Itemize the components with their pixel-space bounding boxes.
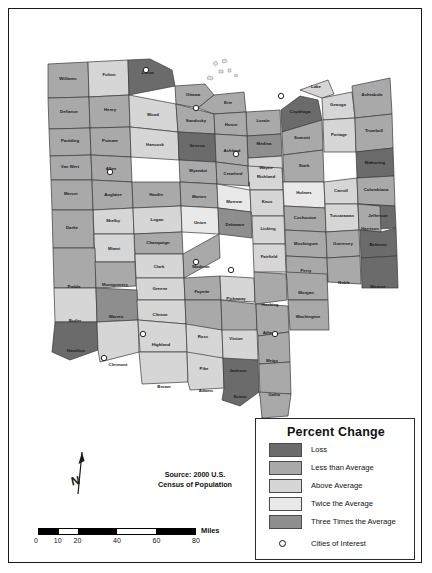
county-label: Highland [152, 342, 171, 347]
county-medina[interactable] [247, 134, 282, 158]
county-label: Harrison [361, 226, 379, 231]
county-label: Fayette [194, 289, 210, 294]
scale-tick-label: 60 [153, 537, 161, 544]
county-lucas[interactable] [128, 59, 175, 95]
scale-segment [78, 529, 117, 534]
source-line-1: Source: 2000 U.S. [133, 470, 257, 480]
city-marker[interactable] [233, 151, 238, 156]
county-jackson[interactable] [222, 330, 258, 362]
legend-swatch [269, 515, 302, 529]
county-label: Pike [200, 366, 209, 371]
county-label: Wyandot [189, 168, 208, 173]
county-fayette[interactable] [184, 276, 221, 300]
county-label: Butler [69, 318, 82, 323]
county-vinton[interactable] [221, 300, 257, 334]
county-label: Mahoning [365, 160, 386, 165]
county-tuscarawas[interactable] [325, 204, 359, 232]
north-arrow: N [58, 448, 98, 500]
county-label: Putnam [102, 138, 118, 143]
county-label: Sandusky [186, 118, 207, 123]
legend-item-label: Loss [311, 445, 327, 454]
county-label: Ottawa [186, 92, 201, 97]
county-label: Monroe [370, 284, 386, 289]
county-label: Jefferson [368, 213, 388, 218]
county-ashtabula[interactable] [352, 78, 392, 118]
county-label: Tuscarawas [330, 213, 355, 218]
county-label: Summit [294, 135, 310, 140]
county-label: Montgomery [102, 282, 128, 287]
county-label: Logan [151, 217, 164, 222]
county-layer[interactable] [48, 59, 398, 418]
county-label: Darke [66, 225, 79, 230]
legend-swatch [269, 443, 302, 457]
county-label: Licking [260, 226, 275, 231]
county-label: Jackson [229, 368, 247, 373]
county-hocking[interactable] [254, 272, 287, 304]
county-madison[interactable] [183, 234, 220, 278]
county-label: Hancock [146, 142, 165, 147]
city-marker[interactable] [228, 267, 233, 272]
county-butler[interactable] [54, 288, 97, 322]
map-page: WilliamsFultonLucasOttawaErieLorainCuyah… [0, 0, 432, 573]
legend-item-label: Twice the Average [311, 499, 373, 508]
county-lorain[interactable] [246, 110, 281, 136]
city-marker-icon [279, 540, 286, 547]
county-label: Greene [153, 286, 168, 291]
county-holmes[interactable] [283, 182, 325, 208]
city-marker[interactable] [101, 355, 106, 360]
county-label: Hardin [149, 192, 163, 197]
county-label: Geauga [330, 102, 346, 107]
county-label: Van Wert [61, 164, 80, 169]
county-lake[interactable] [300, 80, 334, 98]
city-marker[interactable] [140, 331, 145, 336]
county-trumbull[interactable] [355, 114, 393, 152]
county-morrow[interactable] [217, 184, 251, 212]
legend-swatch [269, 461, 302, 475]
county-label: Adams [199, 388, 214, 393]
county-label: Delaware [226, 222, 245, 227]
county-label: Ross [198, 334, 209, 339]
city-marker[interactable] [143, 67, 148, 72]
county-label: Portage [331, 132, 348, 137]
county-fulton[interactable] [88, 60, 129, 97]
county-label: Morrow [226, 199, 242, 204]
city-marker[interactable] [272, 331, 277, 336]
map-legend: Percent Change LossLess than AverageAbov… [255, 418, 415, 560]
county-label: Wayne [259, 165, 273, 170]
county-label: Trumbull [365, 128, 383, 133]
county-label: Clermont [109, 362, 128, 367]
county-label: Scioto [233, 394, 247, 399]
county-label: Meigs [266, 358, 279, 363]
county-label: Wood [147, 112, 159, 117]
county-label: Paulding [61, 138, 80, 143]
city-marker[interactable] [278, 93, 283, 98]
county-label: Clinton [153, 312, 168, 317]
county-label: Richland [257, 174, 276, 179]
scale-tick-label: 10 [54, 537, 62, 544]
county-hamilton[interactable] [52, 322, 98, 360]
county-label: Brown [157, 384, 171, 389]
county-label: Stark [299, 163, 310, 168]
county-morgan[interactable] [286, 272, 328, 300]
county-preble[interactable] [53, 248, 96, 288]
county-label: Carroll [334, 188, 348, 193]
county-label: Muskingum [294, 241, 318, 246]
county-brown[interactable] [139, 352, 188, 384]
legend-swatch [269, 497, 302, 511]
city-marker[interactable] [193, 105, 198, 110]
county-label: Ashtabula [362, 92, 383, 97]
city-marker[interactable] [107, 169, 112, 174]
county-label: Erie [224, 100, 233, 105]
county-label: Knox [262, 199, 273, 204]
county-adams[interactable] [187, 352, 224, 390]
city-marker[interactable] [193, 259, 198, 264]
county-label: Pickaway [226, 296, 246, 301]
county-label: Lake [311, 84, 321, 89]
county-label: Seneca [189, 143, 205, 148]
county-label: Coshocton [294, 215, 317, 220]
county-gallia[interactable] [259, 362, 291, 396]
county-label: Lorain [256, 118, 270, 123]
county-label: Warren [109, 314, 124, 319]
scale-tick-label: 80 [192, 537, 200, 544]
county-label: Miami [108, 246, 120, 251]
